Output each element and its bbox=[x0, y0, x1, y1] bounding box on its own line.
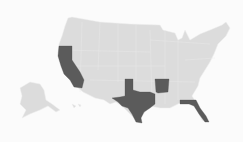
state-florida bbox=[180, 100, 209, 122]
state-arkansas bbox=[155, 79, 169, 93]
us-choropleth-map bbox=[0, 0, 243, 142]
state-hawaii bbox=[72, 104, 81, 108]
map-svg bbox=[0, 0, 243, 142]
state-alaska bbox=[20, 82, 60, 118]
